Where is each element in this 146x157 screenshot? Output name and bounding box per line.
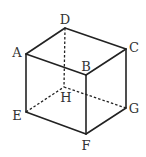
edge-DC bbox=[65, 28, 126, 49]
edge-EF bbox=[26, 112, 86, 134]
edge-FG bbox=[86, 108, 126, 134]
label-E: E bbox=[12, 108, 22, 123]
edge-AD bbox=[26, 28, 65, 54]
cube-diagram: A B C D E F G H bbox=[0, 0, 146, 157]
edge-BA bbox=[26, 54, 86, 75]
label-B: B bbox=[81, 59, 91, 74]
edge-DH bbox=[64, 28, 65, 87]
hidden-edges bbox=[26, 28, 126, 112]
label-D: D bbox=[60, 12, 70, 27]
edge-CB bbox=[86, 49, 126, 75]
label-H: H bbox=[60, 90, 71, 105]
label-C: C bbox=[129, 40, 139, 55]
label-F: F bbox=[81, 138, 90, 153]
edge-EH bbox=[26, 87, 64, 112]
vertex-labels: A B C D E F G H bbox=[11, 12, 139, 153]
label-G: G bbox=[129, 101, 139, 116]
visible-edges bbox=[26, 28, 126, 134]
label-A: A bbox=[11, 45, 22, 60]
edge-HG bbox=[64, 87, 126, 108]
